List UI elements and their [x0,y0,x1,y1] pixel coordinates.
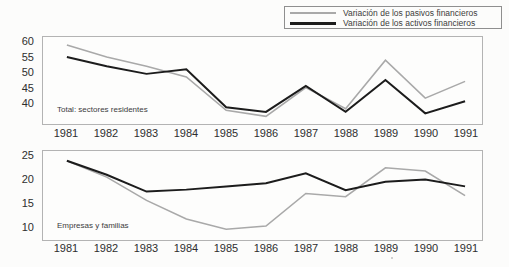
x-tick-label: 1986 [248,127,284,139]
legend-label-activos: Variación de los activos financieros [343,18,475,28]
x-tick-label: 1986 [248,242,284,254]
y-tick-label: 20 [6,173,34,185]
y-tick-label: 40 [6,97,34,109]
legend-item-activos: Variación de los activos financieros [287,18,499,28]
legend-label-pasivos: Variación de los pasivos financieros [343,8,478,18]
x-tick-label: 1989 [368,127,404,139]
series-line-pasivos [67,161,465,229]
x-tick-label: 1983 [128,242,164,254]
x-tick-label: 1984 [168,242,204,254]
activos-line-sample-icon [290,22,336,25]
x-tick-label: 1988 [328,242,364,254]
x-tick-label: 1990 [408,127,444,139]
x-tick-label: 1985 [208,242,244,254]
x-tick-label: 1985 [208,127,244,139]
x-tick-label: 1981 [48,127,84,139]
y-tick-label: 55 [6,51,34,63]
series-line-activos [67,161,465,192]
x-tick-label: 1983 [128,127,164,139]
chart-title-total-sectores-residentes: Total: sectores residentes [57,105,148,114]
scan-artifact-dot [391,257,393,259]
y-tick-label: 15 [6,197,34,209]
x-tick-label: 1982 [88,242,124,254]
x-tick-label: 1991 [448,242,484,254]
x-tick-label: 1988 [328,127,364,139]
x-tick-label: 1981 [48,242,84,254]
legend: Variación de los pasivos financieros Var… [284,6,502,29]
figure-canvas: Variación de los pasivos financieros Var… [0,0,509,267]
chart-title-empresas-y-familias: Empresas y familias [57,221,129,230]
x-tick-label: 1989 [368,242,404,254]
y-tick-label: 50 [6,66,34,78]
y-tick-label: 60 [6,35,34,47]
x-tick-label: 1987 [288,242,324,254]
legend-item-pasivos: Variación de los pasivos financieros [287,8,499,18]
pasivos-line-sample-icon [290,12,336,14]
y-tick-label: 25 [6,149,34,161]
x-tick-label: 1990 [408,242,444,254]
x-tick-label: 1982 [88,127,124,139]
x-tick-label: 1991 [448,127,484,139]
x-tick-label: 1987 [288,127,324,139]
y-tick-label: 45 [6,82,34,94]
x-tick-label: 1984 [168,127,204,139]
y-tick-label: 10 [6,221,34,233]
